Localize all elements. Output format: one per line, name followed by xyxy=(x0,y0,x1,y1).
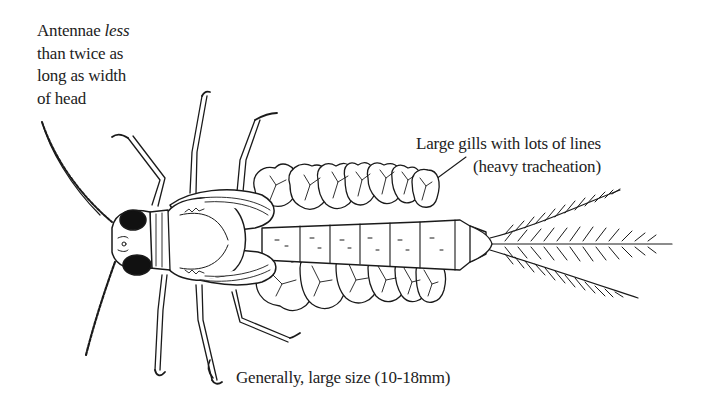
antenna-lower-icon xyxy=(86,262,115,355)
compound-eye-lower-icon xyxy=(123,255,151,275)
head xyxy=(112,210,152,275)
pronotum xyxy=(150,210,170,270)
antennae-leader-line xyxy=(42,122,100,215)
antenna-upper-icon xyxy=(42,122,112,222)
filament-setae xyxy=(505,189,656,297)
mesonotum xyxy=(165,198,246,280)
antennae xyxy=(42,122,115,355)
thorax xyxy=(150,190,276,285)
cercus-lower xyxy=(490,250,638,298)
gills-upper xyxy=(254,163,439,209)
mayfly-nymph-illustration xyxy=(0,0,709,418)
caudal-filaments xyxy=(490,189,672,298)
compound-eye-upper-icon xyxy=(120,210,146,230)
legs-upper xyxy=(112,92,277,206)
